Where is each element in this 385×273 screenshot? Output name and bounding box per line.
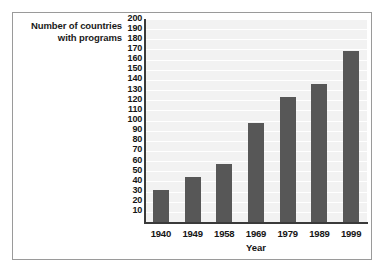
gridline [145, 80, 367, 81]
y-axis-tick-label: 130 [118, 85, 142, 94]
y-axis-tick-label: 50 [118, 166, 142, 175]
y-axis-tick-label: 30 [118, 186, 142, 195]
gridline [145, 90, 367, 91]
bar [248, 123, 264, 222]
bar [153, 190, 169, 222]
bar [216, 164, 232, 222]
y-axis-tick-label: 80 [118, 135, 142, 144]
x-axis-title: Year [145, 242, 367, 253]
x-axis-tick-label: 1940 [145, 228, 177, 239]
y-axis-tick-label: 20 [118, 196, 142, 205]
y-axis-tick-label: 200 [118, 14, 142, 23]
x-axis-tick-label: 1949 [177, 228, 209, 239]
x-axis-tick-label: 1989 [304, 228, 336, 239]
y-axis-title-line-1: Number of countries [18, 20, 122, 32]
y-axis-tick-label: 10 [118, 206, 142, 215]
gridline [145, 121, 367, 122]
y-axis-tick-label: 70 [118, 145, 142, 154]
chart-figure: Number of countries with programs 200190… [0, 0, 385, 273]
x-axis-tick-label: 1969 [240, 228, 272, 239]
bar [280, 97, 296, 222]
y-axis-tick-label: 100 [118, 115, 142, 124]
bar [343, 51, 359, 222]
gridline [145, 70, 367, 71]
bar [185, 177, 201, 222]
y-axis-title-line-2: with programs [18, 32, 122, 44]
x-axis-tick-labels: 1940194919581969197919891999 [145, 228, 367, 242]
y-axis-line [144, 19, 146, 223]
plot-area [145, 19, 367, 222]
gridline [145, 29, 367, 30]
y-axis-tick-label: 160 [118, 54, 142, 63]
y-axis-tick-label: 90 [118, 125, 142, 134]
y-axis-tick-label: 170 [118, 44, 142, 53]
y-axis-tick-label: 150 [118, 64, 142, 73]
bar [311, 84, 327, 222]
x-axis-line [144, 222, 368, 224]
gridline [145, 49, 367, 50]
y-axis-tick-label: 120 [118, 95, 142, 104]
gridline [145, 100, 367, 101]
y-axis-tick-label: 140 [118, 74, 142, 83]
x-axis-tick-label: 1958 [208, 228, 240, 239]
gridline [145, 60, 367, 61]
gridline [145, 110, 367, 111]
y-axis-title: Number of countries with programs [18, 20, 122, 44]
gridline [145, 19, 367, 20]
gridline [145, 39, 367, 40]
y-axis-tick-label: 110 [118, 105, 142, 114]
y-axis-tick-label: 60 [118, 156, 142, 165]
x-axis-tick-label: 1979 [272, 228, 304, 239]
y-axis-tick-label: 180 [118, 34, 142, 43]
x-axis-tick-label: 1999 [335, 228, 367, 239]
y-axis-tick-label: 40 [118, 176, 142, 185]
y-axis-tick-label: 190 [118, 24, 142, 33]
y-axis-tick-labels: 2001901801701601501401301201101009080706… [118, 18, 142, 222]
